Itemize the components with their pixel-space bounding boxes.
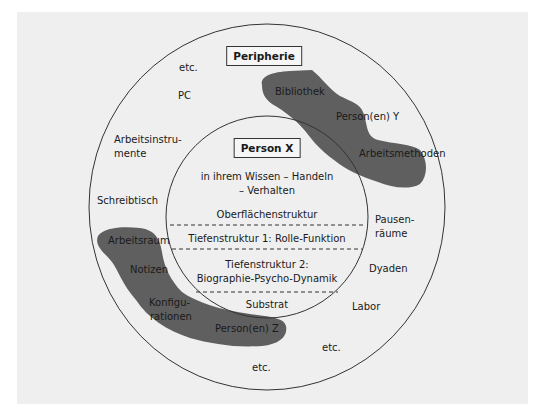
inner-deep1-label: Tiefenstruktur 1: Rolle-Funktion <box>188 232 345 245</box>
label-etc-bottom: etc. <box>252 361 271 374</box>
label-schreibtisch: Schreibtisch <box>97 194 158 207</box>
label-pausenraeume-1: Pausen- <box>375 213 414 226</box>
inner-substrate-label: Substrat <box>246 298 288 311</box>
blob-label-arbeitsraum: Arbeitsraum <box>108 234 170 247</box>
blob-label-arbeitsmethoden: Arbeitsmethoden <box>359 147 445 160</box>
inner-surface-label: Oberflächenstruktur <box>217 208 318 221</box>
inner-deep2-line1: Tiefenstruktur 2: <box>225 258 308 271</box>
inner-knowledge-line2: – Verhalten <box>239 184 295 197</box>
person-x-title-box: Person X <box>234 138 301 158</box>
label-dyaden: Dyaden <box>369 262 408 275</box>
label-arbeitsinstrumente-2: mente <box>114 147 146 160</box>
blob-label-personen-y: Person(en) Y <box>336 110 399 123</box>
blob-label-konfigurationen-2: rationen <box>150 310 192 323</box>
inner-deep2-line2: Biographie-Psycho-Dynamik <box>197 272 338 285</box>
peripherie-title-box: Peripherie <box>226 46 302 66</box>
blob-label-konfigurationen-1: Konfigu- <box>149 296 190 309</box>
label-labor: Labor <box>352 300 380 313</box>
label-etc-bottom-right: etc. <box>322 341 341 354</box>
blob-label-notizen: Notizen <box>130 263 168 276</box>
label-etc-top: etc. <box>179 61 198 74</box>
label-arbeitsinstrumente-1: Arbeitsinstru- <box>114 133 182 146</box>
label-pausenraeume-2: räume <box>375 227 407 240</box>
blob-label-personen-z: Person(en) Z <box>215 322 279 335</box>
label-pc: PC <box>178 89 191 102</box>
blob-label-bibliothek: Bibliothek <box>275 85 325 98</box>
inner-knowledge-line1: in ihrem Wissen – Handeln <box>201 170 334 183</box>
